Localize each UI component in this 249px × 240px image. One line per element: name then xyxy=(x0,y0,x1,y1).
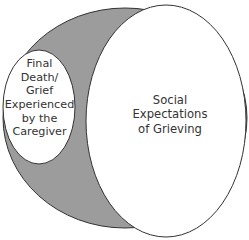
label-line: Expectations xyxy=(120,107,220,121)
label-line: Experienced xyxy=(3,98,76,112)
social-expectations-label: Social Expectations of Grieving xyxy=(120,93,220,136)
label-line: of Grieving xyxy=(120,122,220,136)
label-line: Grief xyxy=(3,84,76,98)
caregiver-grief-label: Final Death/ Grief Experienced by the Ca… xyxy=(3,57,76,139)
label-line: Caregiver xyxy=(3,125,76,139)
label-line: Final xyxy=(3,57,76,71)
label-line: Death/ xyxy=(3,71,76,85)
label-line: Social xyxy=(120,93,220,107)
label-line: by the xyxy=(3,112,76,126)
